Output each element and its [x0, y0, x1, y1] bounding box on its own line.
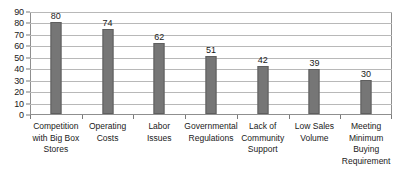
- plot-area: 80746251423930: [30, 12, 392, 115]
- x-axis-tick-mark: [30, 115, 31, 119]
- x-axis-category-label: Meeting Minimum Buying Requirement: [336, 121, 396, 167]
- y-axis-tick-label: 40: [14, 65, 24, 74]
- y-axis-tick-label: 50: [14, 53, 24, 62]
- bar-value-label: 39: [309, 59, 319, 68]
- x-axis-tick-mark: [391, 115, 392, 119]
- y-axis-tick-label: 0: [19, 111, 24, 120]
- bar[interactable]: [102, 29, 113, 114]
- bar-value-label: 80: [51, 12, 61, 21]
- x-axis-category-labels: Competition with Big Box StoresOperating…: [30, 121, 392, 179]
- x-axis-tick-mark: [82, 115, 83, 119]
- bar-slot: 39: [289, 12, 341, 114]
- x-axis-tick-mark: [289, 115, 290, 119]
- bar-slot: 30: [340, 12, 392, 114]
- bar-slot: 51: [185, 12, 237, 114]
- bar-chart: 9080706050403020100 80746251423930 Compe…: [0, 0, 414, 179]
- y-axis-tick-label: 20: [14, 88, 24, 97]
- bar-value-label: 74: [103, 19, 113, 28]
- bar[interactable]: [361, 80, 372, 114]
- x-axis-tick-mark: [340, 115, 341, 119]
- y-axis-tick-label: 10: [14, 99, 24, 108]
- y-axis-tick-label: 70: [14, 30, 24, 39]
- bar-value-label: 51: [206, 46, 216, 55]
- bar-slot: 74: [82, 12, 134, 114]
- bars-layer: 80746251423930: [30, 12, 392, 115]
- y-axis-tick-label: 30: [14, 76, 24, 85]
- x-axis-tick-mark: [185, 115, 186, 119]
- bar-value-label: 42: [258, 56, 268, 65]
- bar-slot: 80: [30, 12, 82, 114]
- bar-value-label: 62: [154, 33, 164, 42]
- bar-slot: 62: [133, 12, 185, 114]
- x-axis-tick-mark: [133, 115, 134, 119]
- x-axis-ticks: [30, 115, 392, 120]
- bar[interactable]: [50, 22, 61, 114]
- y-axis-tick-label: 60: [14, 42, 24, 51]
- y-axis-tick-label: 90: [14, 8, 24, 17]
- bar-value-label: 30: [361, 70, 371, 79]
- bar[interactable]: [154, 43, 165, 114]
- bar-slot: 42: [237, 12, 289, 114]
- bar[interactable]: [257, 66, 268, 114]
- bar[interactable]: [309, 69, 320, 114]
- y-axis-tick-label: 80: [14, 19, 24, 28]
- bar[interactable]: [205, 56, 216, 114]
- y-axis: 9080706050403020100: [0, 12, 30, 115]
- x-axis-tick-mark: [237, 115, 238, 119]
